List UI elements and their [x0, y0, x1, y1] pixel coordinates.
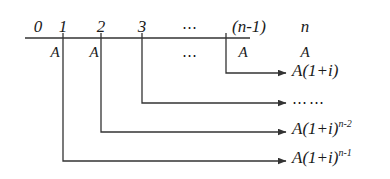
- flow-path-ellipsis: [142, 38, 286, 103]
- period-label-n-minus-1: (n-1): [232, 18, 266, 35]
- period-label-0: 0: [34, 18, 43, 35]
- period-label-1: 1: [59, 18, 68, 35]
- result-base-3: A(1+i): [292, 119, 338, 138]
- result-future-value-ellipsis: ⋯⋯: [292, 93, 325, 110]
- period-label-ellipsis: ⋯: [182, 20, 199, 35]
- result-exponent-4: n-1: [338, 147, 351, 158]
- payment-label-period-2: A: [89, 45, 98, 60]
- payment-label-period-n-minus-1: A: [238, 45, 247, 60]
- compound-interest-timeline-figure: 0 1 2 3 ⋯ (n-1) n A A ⋯ A A A(1+i) ⋯⋯ A(…: [0, 0, 390, 179]
- result-base-1: A(1+i): [292, 61, 338, 80]
- payment-label-period-1: A: [50, 45, 59, 60]
- result-dots: ⋯⋯: [292, 94, 325, 110]
- result-future-value-n-minus-2: A(1+i)n-2: [292, 120, 352, 137]
- period-label-n: n: [301, 18, 310, 35]
- payment-label-period-n: A: [300, 45, 309, 60]
- result-future-value-n-minus-1-power: A(1+i)n-1: [292, 149, 352, 166]
- period-label-2: 2: [97, 18, 106, 35]
- period-label-3: 3: [138, 18, 147, 35]
- result-future-value-n-minus-1: A(1+i): [292, 62, 338, 79]
- payment-label-ellipsis: ⋯: [182, 48, 199, 63]
- flow-path-n-minus-1: [226, 38, 286, 73]
- result-exponent-3: n-2: [338, 118, 351, 129]
- result-base-4: A(1+i): [292, 148, 338, 167]
